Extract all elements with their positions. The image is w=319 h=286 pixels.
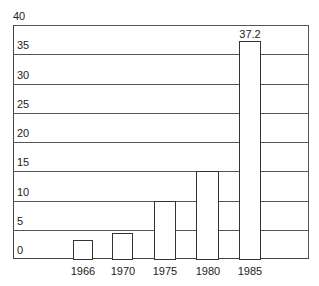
bar-1980 — [196, 171, 219, 260]
y-tick-label: 40 — [13, 11, 25, 22]
x-tick-label: 1980 — [188, 266, 228, 277]
y-tick-label: 25 — [17, 99, 29, 110]
y-tick-label: 0 — [17, 245, 23, 256]
y-tick-label: 35 — [17, 40, 29, 51]
x-tick-label: 1985 — [230, 266, 270, 277]
data-label: 37.2 — [230, 29, 270, 40]
bar-1970 — [112, 233, 133, 260]
y-tick-label: 30 — [17, 70, 29, 81]
x-tick-label: 1966 — [63, 266, 103, 277]
gridline — [13, 171, 309, 172]
gridline — [13, 25, 309, 26]
gridline — [13, 54, 309, 55]
gridline — [13, 84, 309, 85]
x-tick-label: 1975 — [145, 266, 185, 277]
bar-1985 — [239, 41, 261, 260]
y-tick-label: 5 — [17, 216, 23, 227]
y-tick-label: 20 — [17, 128, 29, 139]
bar-1975 — [154, 201, 176, 260]
bar-1966 — [73, 240, 93, 260]
y-tick-label: 10 — [17, 187, 29, 198]
gridline — [13, 113, 309, 114]
bar-chart: 0510152025303540 37.2 196619701975198019… — [0, 0, 319, 286]
y-tick-label: 15 — [17, 157, 29, 168]
gridline — [13, 142, 309, 143]
x-tick-label: 1970 — [103, 266, 143, 277]
